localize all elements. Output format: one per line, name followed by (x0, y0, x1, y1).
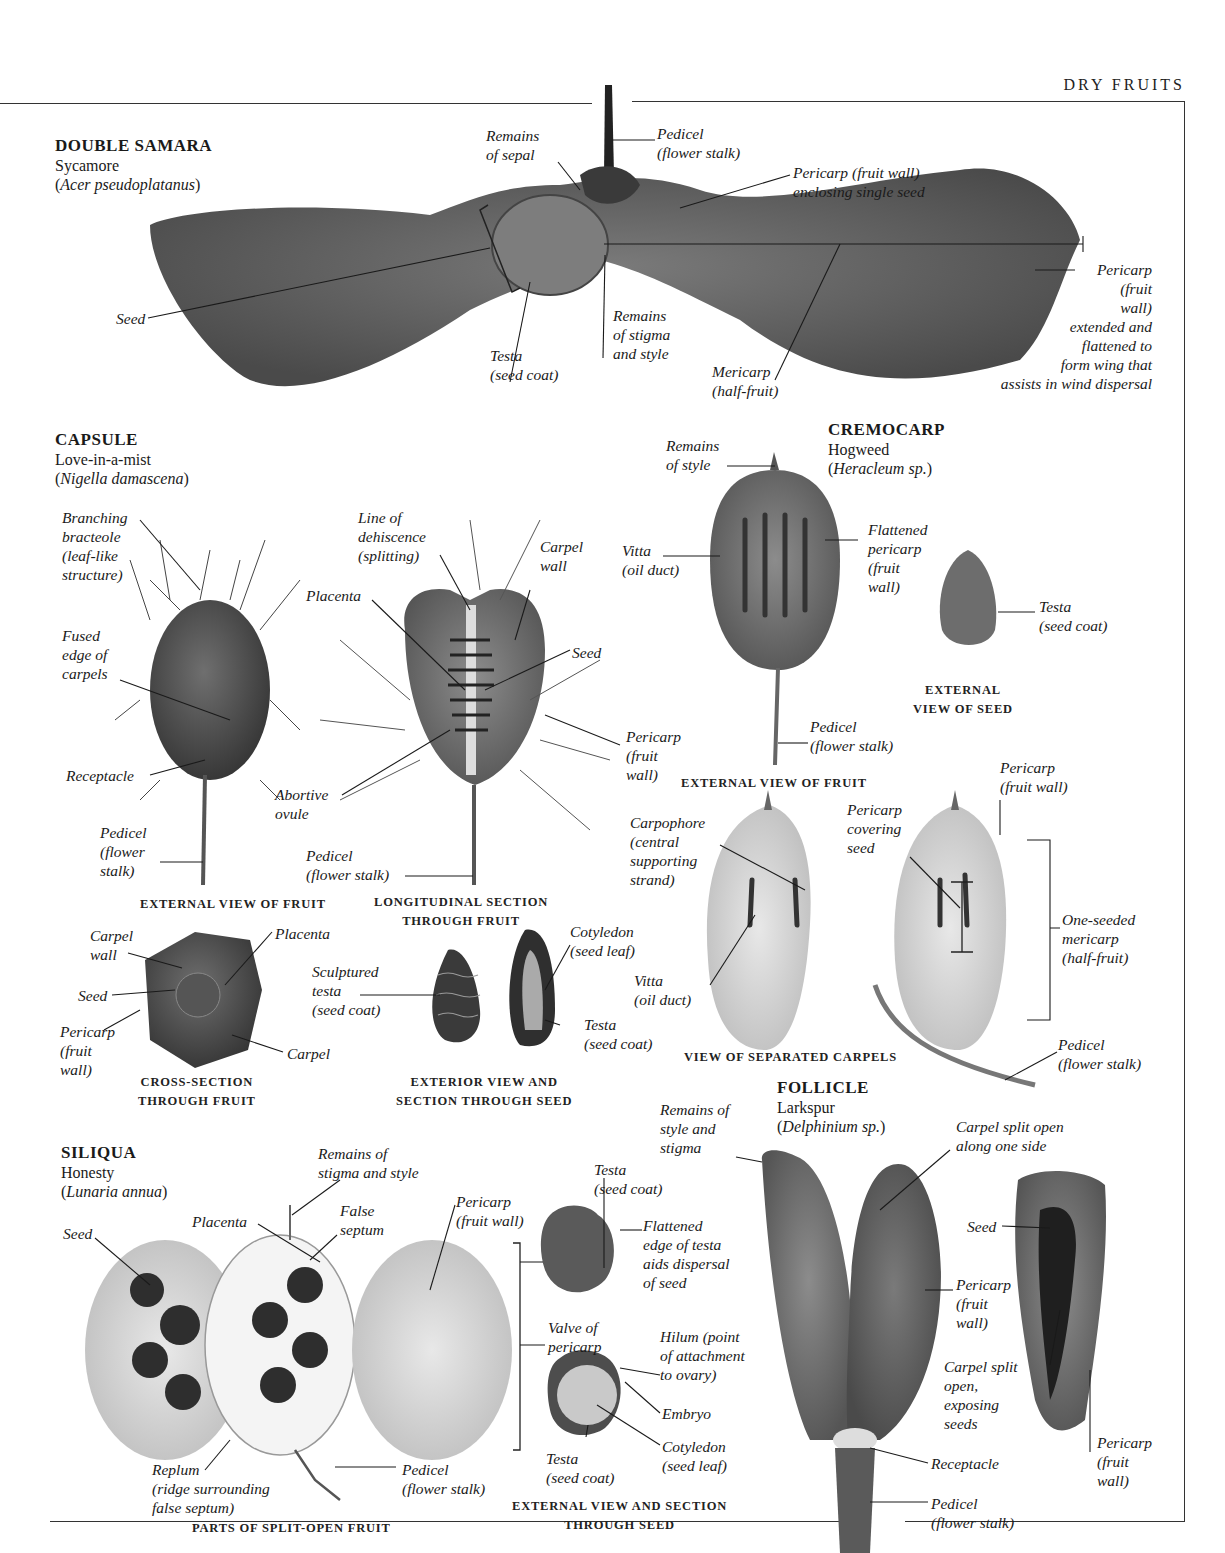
label-embryo: Embryo (662, 1404, 711, 1423)
label-capsule-pedicel-long: Pedicel (flower stalk) (306, 846, 389, 884)
label-capsule-pedicel-ext: Pedicel (flower stalk) (100, 823, 146, 880)
siliqua-latin: Lunaria annua (66, 1183, 162, 1200)
label-follicle-receptacle: Receptacle (931, 1454, 999, 1473)
cremocarp-latin: Heracleum sp. (833, 460, 926, 477)
label-cs-placenta: Placenta (275, 924, 330, 943)
label-follicle-seed: Seed (967, 1217, 996, 1236)
label-bracteole: Branching bracteole (leaf-like structure… (62, 508, 127, 584)
label-remains-stigma: Remains of stigma and style (613, 306, 670, 363)
label-siliqua-pedicel: Pedicel (flower stalk) (402, 1460, 485, 1498)
capsule-cross-section-specimen (145, 932, 262, 1068)
label-one-seeded-mericarp: One-seeded mericarp (half-fruit) (1062, 910, 1135, 967)
label-siliqua-testa-top: Testa (seed coat) (594, 1160, 662, 1198)
caption-siliqua-parts: PARTS OF SPLIT-OPEN FRUIT (192, 1519, 391, 1538)
caption-capsule-cross: CROSS-SECTION THROUGH FRUIT (138, 1073, 256, 1111)
label-flattened-edge: Flattened edge of testa aids dispersal o… (643, 1216, 730, 1292)
label-remains-style: Remains of style (666, 436, 719, 474)
label-siliqua-cotyledon: Cotyledon (seed leaf) (662, 1437, 727, 1475)
capsule-common-name: Love-in-a-mist (55, 450, 189, 469)
label-cremocarp-testa: Testa (seed coat) (1039, 597, 1107, 635)
label-siliqua-seed: Seed (63, 1224, 92, 1243)
samara-common-name: Sycamore (55, 156, 212, 175)
label-cremocarp-pericarp-wall: Pericarp (fruit wall) (1000, 758, 1068, 796)
label-false-septum: False septum (340, 1201, 384, 1239)
caption-cremocarp-separated: VIEW OF SEPARATED CARPELS (684, 1048, 897, 1067)
caption-capsule-external: EXTERNAL VIEW OF FRUIT (140, 895, 326, 914)
samara-heading: DOUBLE SAMARA Sycamore (Acer pseudoplata… (55, 136, 212, 194)
label-siliqua-placenta: Placenta (192, 1212, 247, 1231)
label-mericarp: Mericarp (half-fruit) (712, 362, 778, 400)
label-hilum: Hilum (point of attachment to ovary) (660, 1327, 745, 1384)
label-cremocarp-pedicel-2: Pedicel (flower stalk) (1058, 1035, 1141, 1073)
label-capsule-cotyledon: Cotyledon (seed leaf) (570, 922, 635, 960)
follicle-heading: FOLLICLE Larkspur (Delphinium sp.) (777, 1078, 885, 1136)
label-carpophore: Carpophore (central supporting strand) (630, 813, 705, 889)
capsule-latin: Nigella damascena (60, 470, 183, 487)
follicle-title: FOLLICLE (777, 1078, 885, 1098)
label-carpel-split-open: Carpel split open, exposing seeds (944, 1357, 1018, 1433)
label-cs-carpel: Carpel (287, 1044, 330, 1063)
caption-capsule-seed: EXTERIOR VIEW AND SECTION THROUGH SEED (396, 1073, 572, 1111)
follicle-latin: Delphinium sp. (782, 1118, 880, 1135)
label-cs-carpel-wall: Carpel wall (90, 926, 133, 964)
samara-latin-name: (Acer pseudoplatanus) (55, 175, 212, 194)
follicle-latin-name: (Delphinium sp.) (777, 1117, 885, 1136)
label-remains-sepal: Remains of sepal (486, 126, 539, 164)
capsule-seed-specimens (432, 930, 555, 1047)
label-vitta-2: Vitta (oil duct) (634, 971, 691, 1009)
label-cs-seed: Seed (78, 986, 107, 1005)
label-capsule-seed: Seed (572, 643, 601, 662)
caption-cremocarp-fruit: EXTERNAL VIEW OF FRUIT (681, 774, 867, 793)
siliqua-specimen (85, 1205, 520, 1500)
label-capsule-testa: Testa (seed coat) (584, 1015, 652, 1053)
samara-latin: Acer pseudoplatanus (60, 176, 195, 193)
label-capsule-placenta: Placenta (306, 586, 361, 605)
label-follicle-pericarp-2: Pericarp (fruit wall) (1097, 1433, 1152, 1490)
label-cremocarp-pedicel: Pedicel (flower stalk) (810, 717, 893, 755)
cremocarp-title: CREMOCARP (828, 420, 945, 440)
label-samara-testa: Testa (seed coat) (490, 346, 558, 384)
siliqua-heading: SILIQUA Honesty (Lunaria annua) (61, 1143, 167, 1201)
label-flattened-pericarp: Flattened pericarp (fruit wall) (868, 520, 927, 596)
follicle-specimen (762, 1150, 1106, 1553)
label-carpel-split-side: Carpel split open along one side (956, 1117, 1064, 1155)
label-fused-edge: Fused edge of carpels (62, 626, 108, 683)
label-pericarp-wing: Pericarp (fruit wall) extended and flatt… (968, 260, 1152, 393)
siliqua-title: SILIQUA (61, 1143, 167, 1163)
label-cs-pericarp: Pericarp (fruit wall) (60, 1022, 115, 1079)
label-capsule-receptacle: Receptacle (66, 766, 134, 785)
siliqua-common-name: Honesty (61, 1163, 167, 1182)
label-replum: Replum (ridge surrounding false septum) (152, 1460, 270, 1517)
cremocarp-latin-name: (Heracleum sp.) (828, 459, 945, 478)
label-capsule-pericarp: Pericarp (fruit wall) (626, 727, 681, 784)
siliqua-latin-name: (Lunaria annua) (61, 1182, 167, 1201)
cremocarp-heading: CREMOCARP Hogweed (Heracleum sp.) (828, 420, 945, 478)
label-follicle-pericarp: Pericarp (fruit wall) (956, 1275, 1011, 1332)
label-dehiscence: Line of dehiscence (splitting) (358, 508, 426, 565)
label-siliqua-remains: Remains of stigma and style (318, 1144, 419, 1182)
caption-cremocarp-seed: EXTERNAL VIEW OF SEED (913, 681, 1013, 719)
label-siliqua-pericarp: Pericarp (fruit wall) (456, 1192, 524, 1230)
capsule-title: CAPSULE (55, 430, 189, 450)
label-samara-pedicel: Pedicel (flower stalk) (657, 124, 740, 162)
samara-title: DOUBLE SAMARA (55, 136, 212, 156)
label-pericarp-covering: Pericarp covering seed (847, 800, 902, 857)
caption-capsule-longitudinal: LONGITUDINAL SECTION THROUGH FRUIT (374, 893, 548, 931)
caption-siliqua-seed: EXTERNAL VIEW AND SECTION THROUGH SEED (512, 1497, 727, 1535)
cremocarp-seed-specimen (940, 550, 996, 645)
label-valve-pericarp: Valve of pericarp (548, 1318, 601, 1356)
capsule-latin-name: (Nigella damascena) (55, 469, 189, 488)
label-follicle-pedicel: Pedicel (flower stalk) (931, 1494, 1014, 1532)
label-samara-seed: Seed (116, 309, 145, 328)
label-sculptured-testa: Sculptured testa (seed coat) (312, 962, 380, 1019)
label-abortive-ovule: Abortive ovule (275, 785, 328, 823)
label-pericarp-seed: Pericarp (fruit wall) enclosing single s… (793, 163, 925, 201)
label-siliqua-testa-bottom: Testa (seed coat) (546, 1449, 614, 1487)
cremocarp-common-name: Hogweed (828, 440, 945, 459)
capsule-heading: CAPSULE Love-in-a-mist (Nigella damascen… (55, 430, 189, 488)
label-follicle-remains: Remains of style and stigma (660, 1100, 729, 1157)
label-carpel-wall: Carpel wall (540, 537, 583, 575)
follicle-common-name: Larkspur (777, 1098, 885, 1117)
label-vitta: Vitta (oil duct) (622, 541, 679, 579)
